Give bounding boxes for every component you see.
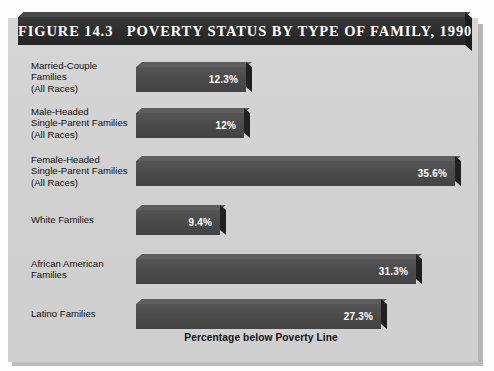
bar-side-face: [455, 156, 461, 186]
bar-row-label: Male-Headed Single-Parent Families (All …: [31, 106, 135, 140]
axis-caption: Percentage below Poverty Line: [136, 332, 386, 343]
figure-title: FIGURE 14.3 POVERTY STATUS BY TYPE OF FA…: [18, 17, 465, 45]
bar-row-label: Latino Families: [31, 308, 135, 319]
bar-side-face: [381, 299, 387, 329]
panel-shadow-right: [478, 24, 483, 362]
bar-row-label: African American Families: [31, 258, 135, 281]
bar-row-label: Female-Headed Single-Parent Families (Al…: [31, 154, 135, 188]
bar-value-label: 27.3%: [136, 311, 373, 322]
bar-value-label: 9.4%: [136, 217, 212, 228]
bar-row-label: Married-Couple Families (All Races): [31, 60, 135, 94]
bar-value-label: 31.3%: [136, 266, 408, 277]
bar-value-label: 35.6%: [136, 168, 447, 179]
bar-row-label: White Families: [31, 214, 135, 225]
bar-side-face: [246, 62, 252, 92]
figure-container: FIGURE 14.3 POVERTY STATUS BY TYPE OF FA…: [0, 0, 494, 371]
bar-side-face: [244, 108, 250, 138]
bar-side-face: [416, 254, 422, 284]
bar-side-face: [220, 205, 226, 235]
panel-shadow-bottom: [12, 362, 483, 366]
bar-value-label: 12%: [136, 120, 236, 131]
bar-value-label: 12.3%: [136, 74, 238, 85]
